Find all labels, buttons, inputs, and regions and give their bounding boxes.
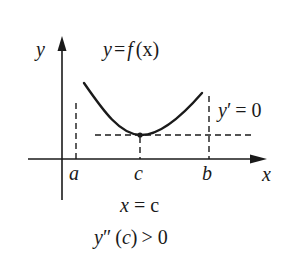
point-a-label: a [69,162,79,184]
x-axis-label: x [261,163,271,185]
condition-second-derivative: y″(c)> 0 [92,226,168,249]
point-c-label: c [134,162,143,184]
y-axis-arrow-icon [58,36,67,51]
function-curve [84,83,202,135]
derivative-zero-label: y′= 0 [216,99,262,122]
point-b-label: b [202,162,212,184]
condition-x-equals-c: x= c [119,194,159,216]
minimum-point [137,132,142,137]
function-formula: y=f(x) [101,38,159,61]
minimum-point-diagram: y x y=f(x) y′= 0 a c b x= c y″(c)> 0 [0,0,297,268]
y-axis-label: y [34,38,45,61]
